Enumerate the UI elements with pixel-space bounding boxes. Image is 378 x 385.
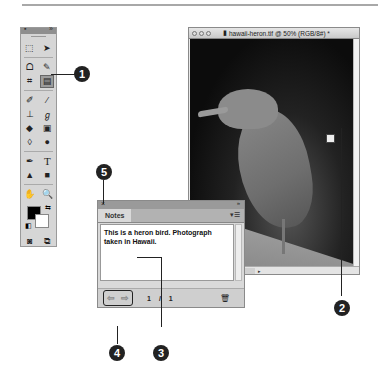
default-colors-icon[interactable]: ◧ — [25, 222, 32, 230]
callout-4: 4 — [109, 345, 125, 361]
note-page-counter: 1 / 1 — [147, 295, 173, 302]
blur-tool-icon[interactable]: ◊ — [23, 136, 37, 149]
tab-notes[interactable]: Notes — [98, 209, 131, 222]
close-window-button[interactable] — [192, 31, 197, 36]
zoom-tool-icon[interactable]: 🔍 — [40, 188, 54, 201]
callout-3: 3 — [153, 345, 169, 361]
gradient-tool-icon[interactable]: ▣ — [40, 122, 54, 135]
pen-tool-icon[interactable]: ✒ — [23, 155, 37, 168]
callout-1-line — [51, 74, 75, 75]
crop-tool-icon[interactable]: ⌗ — [23, 75, 37, 88]
move-tool-icon[interactable]: ➤ — [40, 42, 54, 55]
note-navigation: ⇦ ⇨ — [103, 290, 133, 306]
minimize-window-button[interactable] — [199, 31, 204, 36]
callout-3-line-h — [137, 257, 161, 258]
history-brush-tool-icon[interactable]: ℊ — [40, 108, 54, 121]
screen-mode-icon[interactable]: ⧉ — [40, 235, 54, 248]
dodge-tool-icon[interactable]: ● — [40, 136, 54, 149]
panel-menu-icon[interactable]: ▾☰ — [230, 211, 240, 219]
callout-4-line — [117, 326, 118, 344]
callout-2: 2 — [334, 300, 350, 316]
notes-footer: ⇦ ⇨ 1 / 1 🗑 — [98, 288, 244, 307]
callout-1: 1 — [74, 66, 90, 82]
tools-panel-header[interactable]: ▪ » — [21, 28, 56, 34]
callout-5: 5 — [96, 164, 112, 180]
note-annotation-icon[interactable] — [326, 134, 335, 143]
callout-3-line — [161, 257, 162, 327]
vertical-scrollbar[interactable] — [353, 39, 359, 267]
delete-note-icon[interactable]: 🗑 — [220, 294, 230, 303]
type-tool-icon[interactable]: T — [40, 155, 54, 168]
heron-leg — [282, 219, 285, 254]
document-titlebar[interactable]: ▮ hawaii-heron.tif @ 50% (RGB/8#) * — [189, 28, 359, 39]
next-note-icon[interactable]: ⇨ — [121, 293, 129, 303]
notes-scrollbar[interactable] — [235, 224, 242, 281]
collapse-icon[interactable]: » — [49, 25, 53, 32]
background-color-swatch[interactable] — [35, 214, 49, 228]
marquee-tool-icon[interactable]: ⬚ — [23, 42, 37, 55]
note-tool-icon[interactable]: ▤ — [40, 75, 54, 88]
tools-panel: ▪ » ⬚➤ ᗝ✎ ⌗▤ ✐⁄ ⊥ℊ ◆▣ ◊● ✒T ▲■ ✋🔍 ⇆ ◧ ◙⧉ — [20, 27, 57, 247]
notes-panel-header[interactable]: × » — [98, 201, 244, 209]
path-select-tool-icon[interactable]: ▲ — [23, 169, 37, 182]
callout-5-line — [103, 180, 104, 204]
healing-brush-tool-icon[interactable]: ✐ — [23, 94, 37, 107]
shape-tool-icon[interactable]: ■ — [40, 169, 54, 182]
current-note-number: 1 — [147, 295, 151, 302]
zoom-window-button[interactable] — [206, 31, 211, 36]
previous-note-icon[interactable]: ⇦ — [107, 293, 115, 303]
callout-2-line — [341, 128, 342, 296]
note-text-area[interactable]: This is a heron bird. Photograph taken i… — [100, 224, 234, 281]
quick-mask-icon[interactable]: ◙ — [23, 235, 37, 248]
eraser-tool-icon[interactable]: ◆ — [23, 122, 37, 135]
hand-tool-icon[interactable]: ✋ — [23, 188, 37, 201]
quick-select-tool-icon[interactable]: ✎ — [40, 61, 54, 74]
total-notes: 1 — [169, 295, 173, 302]
clone-stamp-tool-icon[interactable]: ⊥ — [23, 108, 37, 121]
close-icon[interactable]: ▪ — [24, 25, 26, 32]
collapse-panel-icon[interactable]: » — [237, 200, 240, 206]
lasso-tool-icon[interactable]: ᗝ — [23, 61, 37, 74]
status-menu-arrow-icon[interactable]: ▸ — [258, 268, 261, 274]
swap-colors-icon[interactable]: ⇆ — [45, 204, 51, 212]
brush-tool-icon[interactable]: ⁄ — [40, 94, 54, 107]
page-rule — [22, 4, 378, 6]
notes-tab-bar: Notes ▾☰ — [98, 209, 244, 223]
notes-panel: × » Notes ▾☰ This is a heron bird. Photo… — [97, 200, 245, 308]
document-icon: ▮ — [223, 29, 227, 37]
document-title: hawaii-heron.tif @ 50% (RGB/8#) * — [229, 30, 330, 37]
